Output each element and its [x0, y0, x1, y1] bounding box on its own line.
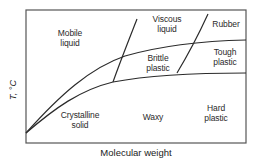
region-label-line: liquid — [153, 24, 182, 34]
region-label-line: Hard — [204, 103, 227, 113]
region-viscous-liquid: Viscous liquid — [153, 14, 182, 34]
region-label-line: Rubber — [212, 19, 239, 29]
region-rubber: Rubber — [212, 19, 239, 29]
phase-diagram: Mobile liquid Viscous liquid Rubber Brit… — [0, 0, 260, 161]
region-label-line: Brittle — [146, 53, 169, 63]
region-hard-plastic: Hard plastic — [204, 103, 227, 123]
x-axis-label: Molecular weight — [100, 147, 171, 158]
region-label-line: Viscous — [153, 14, 182, 24]
region-label-line: Waxy — [143, 112, 164, 122]
left-steep-line — [113, 19, 137, 82]
region-crystalline-solid: Crystalline solid — [61, 110, 100, 130]
region-brittle-plastic: Brittle plastic — [146, 53, 169, 73]
y-axis-label: T, °C — [8, 80, 18, 100]
region-label-line: Crystalline — [61, 110, 100, 120]
region-waxy: Waxy — [143, 112, 164, 122]
region-label-line: plastic — [213, 57, 236, 67]
region-tough-plastic: Tough plastic — [213, 47, 236, 67]
region-label-line: Tough — [213, 47, 236, 57]
region-label-line: Mobile — [58, 28, 82, 38]
region-label-line: liquid — [58, 38, 82, 48]
region-label-line: solid — [61, 120, 100, 130]
region-mobile-liquid: Mobile liquid — [58, 28, 82, 48]
region-label-line: plastic — [204, 113, 227, 123]
region-label-line: plastic — [146, 63, 169, 73]
